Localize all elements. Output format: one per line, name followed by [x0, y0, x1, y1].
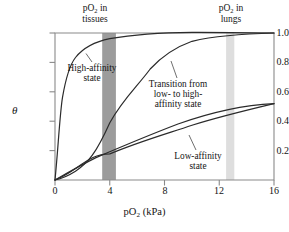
- curve-low-affinity: [55, 104, 274, 180]
- annotation-transition: Transition from low- to high- affinity s…: [140, 79, 216, 110]
- annotation-low-affinity: Low-affinity state: [167, 151, 229, 171]
- leader-line-transition: [171, 61, 177, 78]
- annotation-low-affinity-line1: Low-affinity: [167, 151, 229, 161]
- annotation-transition-line2: low- to high-: [140, 89, 216, 99]
- annotation-transition-line3: affinity state: [140, 99, 216, 109]
- annotation-high-affinity: High-affinity state: [61, 63, 123, 83]
- x-axis-ticks: [55, 180, 274, 186]
- annotation-high-affinity-line2: state: [61, 73, 123, 83]
- annotation-high-affinity-line1: High-affinity: [61, 63, 123, 73]
- shaded-band-tissues: [102, 33, 116, 180]
- leader-line-high-affinity: [86, 54, 92, 63]
- annotation-transition-line1: Transition from: [140, 79, 216, 89]
- plot-canvas: [0, 0, 289, 232]
- oxygen-binding-curve-figure: pO2 in tissues pO2 in lungs θ 1.0 0.8 0.…: [0, 0, 289, 232]
- leader-line-low-affinity: [189, 135, 196, 150]
- annotation-low-affinity-line2: state: [167, 161, 229, 171]
- curve-low-affinity-smooth: [55, 104, 274, 180]
- y-axis-ticks: [50, 33, 56, 151]
